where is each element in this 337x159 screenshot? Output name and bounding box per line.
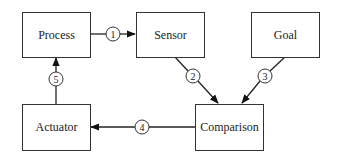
node-sensor: Sensor [137, 13, 205, 58]
edge-sensor-to-comparison: 2 [175, 57, 218, 103]
node-goal: Goal [252, 13, 320, 58]
edge-comparison-to-actuator: 4 [91, 120, 195, 134]
node-label: Comparison [200, 120, 259, 134]
node-actuator: Actuator [23, 105, 91, 151]
node-label: Goal [274, 28, 298, 42]
feedback-loop-diagram: 1 2 3 4 5 Process Sensor Goal [0, 0, 337, 159]
edge-number-5: 5 [54, 74, 59, 85]
edge-number-2: 2 [191, 71, 196, 82]
node-label: Sensor [154, 28, 187, 42]
edge-actuator-to-process: 5 [49, 58, 63, 104]
node-label: Process [38, 28, 75, 42]
edge-number-3: 3 [263, 71, 268, 82]
node-label: Actuator [36, 120, 78, 134]
edge-goal-to-comparison: 3 [242, 57, 285, 103]
node-process: Process [23, 13, 91, 58]
edge-process-to-sensor: 1 [90, 27, 135, 41]
edge-number-4: 4 [140, 122, 145, 133]
node-comparison: Comparison [196, 105, 264, 151]
edge-number-1: 1 [111, 29, 116, 40]
